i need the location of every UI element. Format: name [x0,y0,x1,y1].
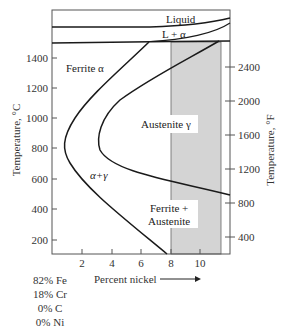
tick-label: 1200 [26,82,49,94]
x-axis-arrow-icon [160,276,201,282]
composition-ni: 0% Ni [0,315,100,329]
tick-label: 4 [109,257,115,269]
tick-label: 600 [32,173,49,185]
region-label-l-alpha: L + α [162,28,186,40]
tick-label: 8 [168,257,174,269]
y-axis-title-fahrenheit: Temperature, °F [264,114,276,185]
liquidus-line [52,18,230,27]
right-axis-labels: 2400 2000 1600 1200 800 400 [238,61,261,243]
left-axis-ticks [52,58,57,240]
x-axis-title: Percent nickel [94,273,157,285]
tick-label: 1400 [26,52,49,64]
tick-label: 1000 [26,112,49,124]
region-label-alpha-gamma: α+γ [90,169,108,181]
y-axis-title-celsius: Temperature, °C [10,104,22,177]
region-label-liquid: Liquid [166,13,196,25]
tick-label: 2 [79,257,85,269]
composition-annotation: 82% Fe 18% Cr 0% C 0% Ni [0,273,100,329]
composition-c: 0% C [0,301,100,315]
composition-cr: 18% Cr [0,287,100,301]
tick-label: 1200 [238,163,261,175]
region-label-ferrite: Ferrite α [66,62,104,74]
region-label-austenite: Austenite γ [141,118,191,130]
region-label-ferrite-plus: Ferrite + [150,202,188,214]
bottom-axis-labels: 2 4 6 8 10 [79,257,206,269]
left-axis-labels: 1400 1200 1000 800 600 400 200 [26,52,49,246]
tick-label: 1600 [238,129,261,141]
tick-label: 2400 [238,61,261,73]
tick-label: 2000 [238,95,261,107]
tick-label: 200 [32,234,49,246]
tick-label: 800 [238,197,255,209]
tick-label: 10 [195,257,207,269]
tick-label: 800 [32,142,49,154]
region-label-austenite-2: Austenite [148,215,190,227]
tick-label: 400 [238,231,255,243]
composition-fe: 82% Fe [0,273,100,287]
tick-label: 400 [32,203,49,215]
tick-label: 6 [138,257,144,269]
